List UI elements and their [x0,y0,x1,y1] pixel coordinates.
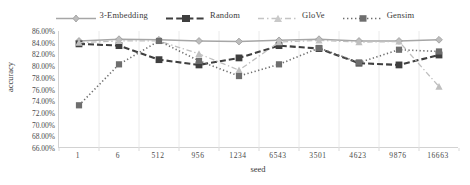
data-point-marker [316,45,322,51]
y-tick-label: 80.00% [3,62,55,71]
y-tick-label: 78.00% [3,73,55,82]
y-tick-label: 82.00% [3,50,55,59]
y-tick-label: 70.00% [3,120,55,129]
y-axis-tick-labels: 86.00%84.00%82.00%80.00%78.00%76.00%74.0… [0,31,55,148]
legend-item-3-embedding: 3-Embedding [56,10,148,21]
data-point-marker [116,61,122,67]
data-point-marker [436,36,443,43]
data-point-marker [436,48,442,54]
accuracy-vs-seed-chart: 3-Embedding Random GloVe [0,0,470,185]
series-random [76,40,443,68]
legend-label-gensim: Gensim [387,10,415,20]
series-glove [75,37,442,90]
data-point-marker [236,73,242,79]
y-tick-label: 74.00% [3,97,55,106]
data-point-marker [196,38,203,45]
legend-label-random: Random [210,10,240,20]
legend-item-gensim: Gensim [343,10,415,21]
data-point-marker [236,55,243,62]
chart-legend: 3-Embedding Random GloVe [0,6,470,24]
data-point-marker [76,102,82,108]
plot-area [58,31,458,148]
y-tick-label: 76.00% [3,85,55,94]
data-point-marker [236,38,243,45]
series-line [79,39,439,41]
data-point-marker [196,58,202,64]
x-axis-title: seed [58,164,458,174]
data-point-marker [276,61,282,67]
legend-label-3-embedding: 3-Embedding [100,10,148,20]
x-axis-tick-labels: 165129561234654335014623987616663 [58,151,458,163]
y-tick-label: 66.00% [3,144,55,153]
data-point-marker [235,67,242,74]
data-point-marker [156,38,162,44]
legend-swatch-3-embedding [56,10,96,21]
data-point-marker [396,62,403,69]
data-point-marker [156,56,163,63]
legend-label-glove: GloVe [302,10,325,20]
x-tick-label: 16663 [413,151,463,160]
series-line [79,40,439,86]
legend-item-random: Random [166,10,240,21]
y-tick-label: 86.00% [3,27,55,36]
y-tick-label: 68.00% [3,132,55,141]
series-gensim [76,38,442,109]
y-tick-label: 84.00% [3,38,55,47]
legend-swatch-random [166,10,206,21]
data-series-layer [59,31,459,148]
legend-swatch-glove [258,10,298,21]
data-point-marker [396,47,402,53]
data-point-marker [195,50,202,57]
legend-item-glove: GloVe [258,10,325,21]
y-tick-label: 72.00% [3,108,55,117]
legend-swatch-gensim [343,10,383,21]
data-point-marker [356,59,362,65]
series-line [79,44,439,65]
